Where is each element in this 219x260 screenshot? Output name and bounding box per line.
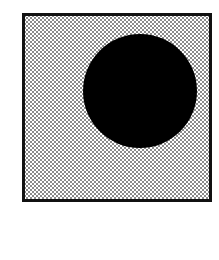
black-circle [83, 34, 197, 148]
